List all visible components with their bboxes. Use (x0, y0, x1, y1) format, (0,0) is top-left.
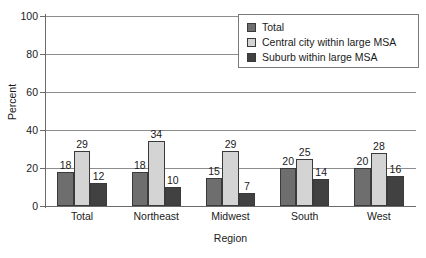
bar-group: 183410 (132, 16, 182, 206)
bar-value-label: 28 (367, 141, 392, 152)
bar (148, 141, 165, 206)
bar (296, 159, 313, 207)
bar-value-label: 10 (161, 175, 186, 186)
x-axis-category-label: Midwest (193, 210, 267, 222)
bar-value-label: 29 (70, 139, 95, 150)
y-axis-tick-label: 0 (4, 201, 38, 211)
bar (313, 179, 330, 206)
bar-value-label: 34 (144, 129, 169, 140)
bar (90, 183, 107, 206)
x-axis-category-label: Total (45, 210, 119, 222)
legend-swatch (247, 38, 256, 47)
bar (165, 187, 182, 206)
bar-value-label: 12 (86, 171, 111, 182)
chart-legend: TotalCentral city within large MSASuburb… (238, 14, 419, 68)
y-axis-tick-mark (40, 206, 46, 207)
y-axis-tick-mark (40, 16, 46, 17)
bar-group: 182912 (57, 16, 107, 206)
legend-label: Central city within large MSA (262, 37, 396, 48)
y-axis-tick-label: 80 (4, 49, 38, 59)
x-axis-category-label: West (342, 210, 416, 222)
legend-label: Total (262, 22, 284, 33)
bar-value-label: 16 (383, 164, 408, 175)
x-axis-title: Region (45, 232, 416, 244)
bar (57, 172, 74, 206)
bar (354, 168, 371, 206)
bar-chart-figure: 020406080100 Percent 1829121834101529720… (0, 0, 426, 258)
bar (222, 151, 239, 206)
y-axis-tick-mark (40, 168, 46, 169)
bar (132, 172, 149, 206)
bar (387, 176, 404, 206)
y-axis-tick-mark (40, 92, 46, 93)
x-axis-category-label: South (268, 210, 342, 222)
caption-fragment (0, 249, 426, 258)
y-axis-tick-label: 100 (4, 11, 38, 21)
y-axis-title: Percent (6, 67, 18, 137)
legend-item: Suburb within large MSA (247, 50, 418, 65)
legend-swatch (247, 23, 256, 32)
bar-value-label: 14 (309, 167, 334, 178)
y-axis-tick-mark (40, 130, 46, 131)
legend-item: Total (247, 20, 418, 35)
bar (239, 193, 256, 206)
bar (206, 178, 223, 207)
legend-label: Suburb within large MSA (262, 52, 378, 63)
x-axis-category-label: Northeast (119, 210, 193, 222)
bar-value-label: 7 (235, 181, 260, 192)
bar-value-label: 25 (292, 147, 317, 158)
y-axis-tick-label: 20 (4, 163, 38, 173)
y-axis-tick-mark (40, 54, 46, 55)
legend-swatch (247, 53, 256, 62)
bar-value-label: 29 (218, 139, 243, 150)
bar (280, 168, 297, 206)
x-axis-line (45, 206, 416, 207)
legend-item: Central city within large MSA (247, 35, 418, 50)
bar (371, 153, 388, 206)
